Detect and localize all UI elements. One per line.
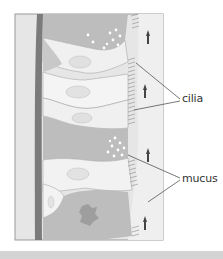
nucleus: [67, 168, 89, 180]
nucleus: [66, 86, 90, 98]
bottom-divider-bar: [0, 251, 223, 259]
epithelium-diagram: cilia mucus: [0, 0, 223, 259]
cilia-label: cilia: [182, 92, 203, 105]
nucleus: [48, 196, 54, 208]
nucleus: [69, 56, 91, 68]
mucus-label: mucus: [182, 172, 217, 185]
diagram-svg: [0, 0, 223, 259]
nucleus: [72, 113, 92, 123]
